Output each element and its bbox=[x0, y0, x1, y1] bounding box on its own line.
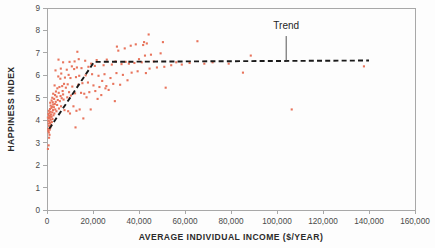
data-point bbox=[75, 110, 77, 112]
data-point bbox=[96, 59, 98, 61]
data-point bbox=[60, 105, 62, 107]
data-point bbox=[126, 79, 128, 81]
data-point bbox=[51, 118, 53, 120]
data-point bbox=[137, 70, 139, 72]
happiness-income-scatter-chart: 0123456789 020,00040,00060,00080,000100,… bbox=[0, 0, 435, 248]
data-point bbox=[130, 45, 132, 47]
x-tick-label: 20,000 bbox=[80, 217, 105, 226]
data-point bbox=[181, 64, 183, 66]
data-point bbox=[86, 96, 88, 98]
x-tick-label: 40,000 bbox=[126, 217, 151, 226]
trend-line bbox=[49, 61, 369, 129]
data-point bbox=[52, 109, 54, 111]
data-point bbox=[71, 86, 73, 88]
data-point bbox=[363, 65, 365, 67]
data-point bbox=[80, 92, 82, 94]
data-point bbox=[62, 61, 64, 63]
data-point bbox=[74, 126, 76, 128]
data-point bbox=[114, 100, 116, 102]
data-point bbox=[133, 62, 135, 64]
trend-label: Trend bbox=[273, 20, 299, 31]
y-tick-label: 6 bbox=[35, 71, 40, 80]
data-point bbox=[53, 112, 55, 114]
x-tick-label: 160,000 bbox=[400, 217, 430, 226]
data-point bbox=[120, 63, 122, 65]
data-point bbox=[49, 117, 51, 119]
data-point bbox=[59, 78, 61, 80]
data-point bbox=[170, 64, 172, 66]
data-point bbox=[63, 99, 65, 101]
y-tick-label: 5 bbox=[35, 94, 40, 103]
data-point bbox=[56, 87, 58, 89]
data-point bbox=[60, 72, 62, 74]
data-point bbox=[97, 98, 99, 100]
data-point bbox=[49, 102, 51, 104]
data-point bbox=[79, 108, 81, 110]
x-tick-label: 80,000 bbox=[218, 217, 243, 226]
trend-annotation: Trend bbox=[273, 20, 299, 60]
data-point bbox=[54, 103, 56, 105]
data-point bbox=[101, 80, 103, 82]
data-point bbox=[124, 47, 126, 49]
data-point bbox=[63, 109, 65, 111]
data-point bbox=[97, 75, 99, 77]
data-point bbox=[165, 87, 167, 89]
x-axis-ticks: 020,00040,00060,00080,000100,000120,0001… bbox=[45, 210, 431, 226]
data-point bbox=[51, 97, 53, 99]
data-point bbox=[60, 68, 62, 70]
data-point bbox=[50, 105, 52, 107]
y-tick-label: 7 bbox=[35, 49, 40, 58]
data-point bbox=[60, 95, 62, 97]
data-point bbox=[61, 97, 63, 99]
data-point bbox=[131, 72, 133, 74]
plot-frame bbox=[47, 8, 415, 210]
data-point bbox=[53, 98, 55, 100]
data-point bbox=[156, 66, 158, 68]
data-point bbox=[76, 51, 78, 53]
data-point bbox=[146, 42, 148, 44]
x-tick-label: 60,000 bbox=[172, 217, 197, 226]
x-tick-label: 100,000 bbox=[262, 217, 292, 226]
data-point bbox=[64, 77, 66, 79]
data-point bbox=[128, 63, 130, 65]
data-point bbox=[150, 54, 152, 56]
data-point bbox=[72, 105, 74, 107]
data-point bbox=[75, 76, 77, 78]
data-point bbox=[135, 43, 137, 45]
x-tick-label: 120,000 bbox=[308, 217, 338, 226]
data-point bbox=[109, 77, 111, 79]
data-point bbox=[58, 108, 60, 110]
data-point bbox=[103, 64, 105, 66]
y-tick-label: 0 bbox=[35, 206, 40, 215]
x-tick-label: 140,000 bbox=[354, 217, 384, 226]
data-point bbox=[163, 66, 165, 68]
data-point bbox=[55, 101, 57, 103]
data-point bbox=[111, 64, 113, 66]
data-point bbox=[148, 33, 150, 35]
data-point bbox=[52, 93, 54, 95]
data-point bbox=[84, 60, 86, 62]
data-point bbox=[68, 74, 70, 76]
data-point bbox=[69, 112, 71, 114]
data-point bbox=[291, 108, 293, 110]
data-point bbox=[87, 81, 89, 83]
data-point bbox=[65, 87, 67, 89]
data-point bbox=[51, 121, 53, 123]
data-point bbox=[203, 63, 205, 65]
data-point bbox=[54, 69, 56, 71]
data-point bbox=[116, 46, 118, 48]
data-point bbox=[48, 115, 50, 117]
data-point bbox=[48, 134, 50, 136]
y-tick-label: 4 bbox=[35, 116, 40, 125]
data-point bbox=[104, 87, 106, 89]
data-point bbox=[160, 52, 162, 54]
data-point bbox=[53, 106, 55, 108]
x-tick-label: 0 bbox=[45, 217, 50, 226]
data-point bbox=[47, 116, 49, 118]
data-point bbox=[115, 72, 117, 74]
y-axis-title: HAPPINESS INDEX bbox=[6, 66, 16, 151]
data-point bbox=[68, 91, 70, 93]
data-point bbox=[119, 84, 121, 86]
data-point bbox=[108, 89, 110, 91]
plot-svg: 0123456789 020,00040,00060,00080,000100,… bbox=[0, 0, 435, 248]
